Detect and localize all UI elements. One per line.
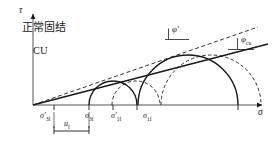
- u-subscript: f: [68, 124, 70, 130]
- effective-circle-2: [138, 55, 238, 105]
- subscript: 1f: [117, 116, 122, 122]
- total-circle-2: [161, 55, 261, 105]
- x-axis-label: σ: [258, 108, 263, 118]
- phi-cu-subscript: cu: [246, 40, 251, 46]
- subscript: 3f: [89, 116, 94, 122]
- sigma3f-effective-label: σ′3f: [40, 112, 50, 122]
- y-axis-label: τ: [19, 6, 22, 16]
- sigma1f-effective-label: σ′1f: [111, 112, 121, 122]
- subscript: 3f: [46, 116, 51, 122]
- mohr-circle-figure: τ σ 正常固结 CU φ′ φcu σ′3f uf σ3f σ′1f σ1f: [0, 0, 275, 143]
- phi-prime-label: φ′: [172, 25, 179, 34]
- test-type-label: CU: [33, 46, 48, 57]
- total-circle-1: [112, 81, 160, 105]
- phi-cu-label: φcu: [241, 35, 251, 46]
- effective-stress-envelope: [33, 27, 258, 105]
- sigma3f-total-label: σ3f: [85, 112, 94, 122]
- sigma1f-total-label: σ1f: [143, 112, 152, 122]
- subscript: 1f: [147, 116, 152, 122]
- total-stress-envelope: [33, 44, 268, 105]
- consolidation-state-label: 正常固结: [22, 22, 66, 33]
- pore-pressure-label: uf: [64, 120, 70, 130]
- phi-prime-mark: ′: [177, 24, 179, 34]
